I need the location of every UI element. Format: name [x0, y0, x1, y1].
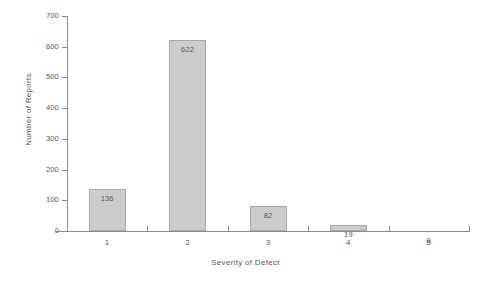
x-tick-5	[469, 226, 470, 232]
y-tick-700	[62, 16, 68, 17]
x-tick-label-4: 4	[328, 238, 368, 247]
y-tick-label-700: 700	[19, 12, 59, 20]
y-tick-label-600: 600	[19, 43, 59, 51]
y-tick-100	[62, 200, 68, 201]
y-tick-label-500: 500	[19, 73, 59, 81]
x-tick-3	[308, 226, 309, 232]
x-axis-title: Severity of Defect	[0, 258, 491, 267]
bar-chart: Number of Reports 0100200300400500600700…	[0, 0, 491, 284]
x-tick-0	[67, 226, 68, 232]
x-tick-2	[228, 226, 229, 232]
y-axis-line	[67, 16, 68, 231]
x-tick-1	[147, 226, 148, 232]
x-tick-label-5: 5	[409, 238, 449, 247]
bar-value-label-1: 136	[85, 194, 129, 203]
y-tick-label-100: 100	[19, 196, 59, 204]
y-tick-600	[62, 47, 68, 48]
bar-value-label-3: 82	[246, 211, 290, 220]
x-tick-4	[389, 226, 390, 232]
x-tick-label-1: 1	[87, 238, 127, 247]
y-tick-label-0: 0	[19, 227, 59, 235]
y-tick-300	[62, 139, 68, 140]
y-tick-500	[62, 77, 68, 78]
y-tick-400	[62, 108, 68, 109]
x-tick-label-3: 3	[248, 238, 288, 247]
y-tick-label-200: 200	[19, 166, 59, 174]
y-tick-label-400: 400	[19, 104, 59, 112]
y-tick-label-300: 300	[19, 135, 59, 143]
x-axis-line	[55, 231, 469, 232]
x-tick-label-2: 2	[168, 238, 208, 247]
y-tick-200	[62, 170, 68, 171]
bar-value-label-2: 622	[166, 45, 210, 54]
bar-2	[169, 40, 206, 231]
